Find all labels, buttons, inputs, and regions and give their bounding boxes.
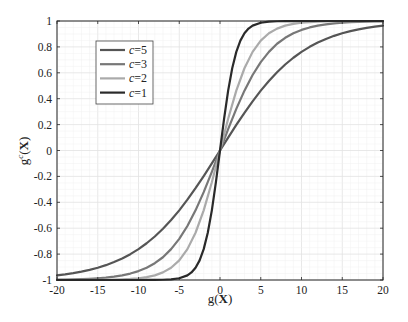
y-tick-label: 0.8 xyxy=(38,41,53,53)
y-tick-label: 0.2 xyxy=(38,119,53,131)
chart: -20-15-10-505101520 -1-0.8-0.6-0.4-0.200… xyxy=(0,0,408,322)
y-axis-label-close: ) xyxy=(16,137,31,141)
y-tick-label: -1 xyxy=(42,274,52,286)
y-tick-label: -0.6 xyxy=(34,222,52,234)
x-axis-label-base: g( xyxy=(208,291,219,306)
x-axis-label: g(X) xyxy=(208,291,233,306)
y-tick-label: 1 xyxy=(46,15,52,27)
x-tick-label: 15 xyxy=(337,284,349,296)
x-tick-label: 20 xyxy=(377,284,389,296)
legend-label: c=3 xyxy=(129,57,147,71)
x-axis-label-close: ) xyxy=(228,291,232,306)
x-tick-label: -10 xyxy=(131,284,147,296)
y-tick-label: -0.8 xyxy=(34,248,52,260)
x-tick-label: -5 xyxy=(174,284,184,296)
y-tick-label: 0.6 xyxy=(38,67,53,79)
y-axis-label: gc(X) xyxy=(15,137,31,166)
y-tick-label: -0.4 xyxy=(34,196,52,208)
legend-label: c=2 xyxy=(129,71,147,85)
legend-label: c=5 xyxy=(129,43,147,57)
legend: c=5c=3c=2c=1 xyxy=(96,41,153,104)
legend-label: c=1 xyxy=(129,86,147,100)
y-tick-label: 0 xyxy=(46,145,52,157)
x-tick-label: 5 xyxy=(258,284,264,296)
y-tick-label: 0.4 xyxy=(38,93,53,105)
x-tick-label: -15 xyxy=(90,284,106,296)
x-tick-label: 10 xyxy=(296,284,308,296)
y-tick-label: -0.2 xyxy=(34,170,52,182)
